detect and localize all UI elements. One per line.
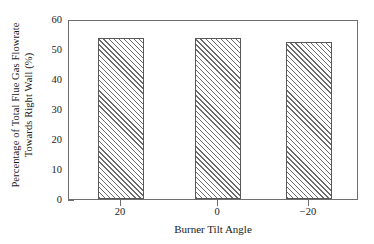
y-axis-title: Percentage of Total Flue Gas Flowrate To… [0,0,44,210]
bar [195,38,241,199]
x-tick-label: 0 [187,206,247,218]
y-tick-label: 30 [52,104,63,115]
bar-series [69,21,357,199]
plot-area [68,20,358,200]
y-tick-mark [68,200,74,201]
bar-chart-figure: Percentage of Total Flue Gas Flowrate To… [0,0,374,244]
y-tick-label: 60 [52,14,63,25]
y-tick-label: 50 [52,44,63,55]
x-tick-label: 20 [90,206,150,218]
y-tick-label: 40 [52,74,63,85]
y-axis-title-line-2: Towards Right Wall (%) [22,22,35,187]
bar [98,38,144,199]
bar [286,42,332,199]
y-tick-label: 20 [52,134,63,145]
x-axis-title: Burner Tilt Angle [68,223,358,236]
y-axis-title-text: Percentage of Total Flue Gas Flowrate To… [9,22,35,187]
y-tick-label: 10 [52,164,63,175]
y-tick-label: 0 [57,194,62,205]
x-tick-label: −20 [278,206,338,218]
y-axis-title-line-1: Percentage of Total Flue Gas Flowrate [9,22,22,187]
